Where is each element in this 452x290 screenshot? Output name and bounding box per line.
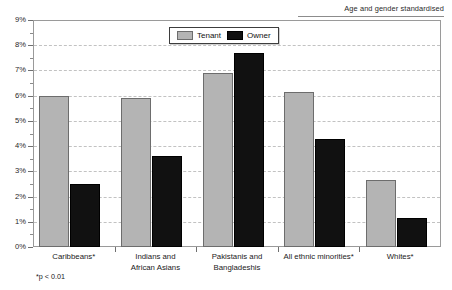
y-axis-tick (28, 171, 33, 172)
bar-tenant (121, 98, 151, 247)
bar-owner (234, 53, 264, 247)
y-axis-tick-label: 6% (2, 91, 26, 100)
standardisation-note-rule (298, 16, 444, 17)
bar-tenant (39, 96, 69, 247)
x-axis-category-label: All ethnic minorities* (278, 252, 360, 263)
chart-legend: TenantOwner (169, 27, 279, 44)
bar-tenant (366, 180, 396, 247)
y-axis-minor-tick (30, 83, 33, 84)
bar-owner (315, 139, 345, 247)
legend-swatch-owner (227, 31, 243, 40)
y-axis-tick-label: 7% (2, 65, 26, 74)
bar-owner (397, 218, 427, 247)
y-axis-tick-label: 5% (2, 116, 26, 125)
y-axis-tick (28, 121, 33, 122)
standardisation-note: Age and gender standardised (344, 4, 444, 13)
y-axis-minor-tick (30, 108, 33, 109)
legend-label: Owner (247, 31, 271, 40)
x-axis-category-label: Caribbeans* (33, 252, 115, 263)
bar-tenant (203, 73, 233, 247)
bar-owner (70, 184, 100, 247)
y-axis-tick-label: 0% (2, 242, 26, 251)
y-axis-tick (28, 70, 33, 71)
x-axis-category-label: Indians and African Asians (115, 252, 197, 273)
y-axis-minor-tick (30, 159, 33, 160)
y-axis-minor-tick (30, 134, 33, 135)
y-axis-minor-tick (30, 234, 33, 235)
y-axis-minor-tick (30, 184, 33, 185)
x-axis-category-label: Pakistanis and Bangladeshis (196, 252, 278, 273)
y-axis-tick-label: 4% (2, 141, 26, 150)
y-axis-minor-tick (30, 33, 33, 34)
bar-chart: Age and gender standardised 0%1%2%3%4%5%… (0, 0, 452, 290)
y-axis-tick (28, 146, 33, 147)
y-axis-tick (28, 247, 33, 248)
y-axis-tick (28, 197, 33, 198)
y-axis-tick-label: 9% (2, 15, 26, 24)
legend-item-tenant: Tenant (177, 31, 221, 40)
y-axis-tick-label: 3% (2, 166, 26, 175)
bar-owner (152, 156, 182, 247)
legend-swatch-tenant (177, 31, 193, 40)
gridline (34, 45, 440, 46)
y-axis-tick-label: 8% (2, 40, 26, 49)
y-axis-tick (28, 45, 33, 46)
y-axis-tick (28, 96, 33, 97)
bar-tenant (284, 92, 314, 247)
y-axis-tick-label: 1% (2, 217, 26, 226)
y-axis-minor-tick (30, 209, 33, 210)
y-axis-tick-label: 2% (2, 192, 26, 201)
y-axis-tick (28, 20, 33, 21)
y-axis-tick (28, 222, 33, 223)
significance-footnote: *p < 0.01 (36, 272, 65, 281)
x-axis-category-label: Whites* (359, 252, 441, 263)
legend-label: Tenant (197, 31, 221, 40)
y-axis-minor-tick (30, 58, 33, 59)
legend-item-owner: Owner (227, 31, 271, 40)
